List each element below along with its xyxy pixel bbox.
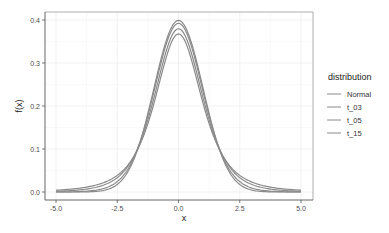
grid-lines — [45, 12, 313, 200]
y-tick-label: 0.3 — [30, 60, 40, 67]
x-axis-title: x — [182, 213, 187, 223]
legend: distribution Normalt_03t_05t_15 — [327, 72, 372, 138]
x-tick-label: 2.5 — [235, 205, 245, 212]
legend-label-t-05: t_05 — [347, 116, 362, 125]
y-tick-label: 0.0 — [30, 189, 40, 196]
y-tick-label: 0.1 — [30, 146, 40, 153]
x-tick-label: -2.5 — [111, 205, 123, 212]
legend-title: distribution — [328, 72, 372, 82]
x-tick-label: 0.0 — [174, 205, 184, 212]
legend-label-t-15: t_15 — [347, 129, 362, 138]
x-tick-label: 5.0 — [296, 205, 306, 212]
x-tick-label: -5.0 — [50, 205, 62, 212]
y-axis-title: f(x) — [14, 100, 24, 113]
legend-label-normal: Normal — [347, 90, 372, 99]
x-axis-ticks: -5.0-2.50.02.55.0 — [50, 200, 306, 212]
y-axis-ticks: 0.00.10.20.30.4 — [30, 17, 45, 196]
density-chart: -5.0-2.50.02.55.0 0.00.10.20.30.4 x f(x)… — [0, 0, 389, 233]
y-tick-label: 0.2 — [30, 103, 40, 110]
y-tick-label: 0.4 — [30, 17, 40, 24]
legend-label-t-03: t_03 — [347, 103, 362, 112]
